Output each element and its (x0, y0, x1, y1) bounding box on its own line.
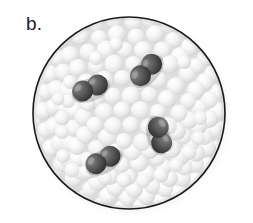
particle-field (24, 10, 236, 218)
figure-panel: b. (0, 0, 253, 223)
panel-label: b. (26, 14, 42, 33)
